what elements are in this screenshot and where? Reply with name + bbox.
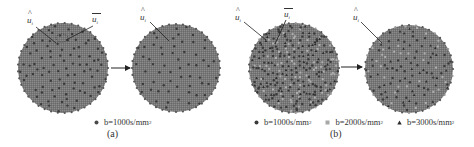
- bar-accent: [92, 13, 101, 14]
- legend-text: b=1000s/mm: [104, 117, 149, 127]
- bar-accent: [284, 8, 293, 9]
- legend-item: b=2000s/mm2: [325, 117, 382, 127]
- sphere-b-after: [364, 24, 454, 114]
- triangle-marker-icon: [397, 120, 402, 125]
- legend-sup: 2: [380, 120, 383, 125]
- label-u-bar-b: ui: [284, 10, 290, 20]
- hat-accent: ^: [236, 7, 240, 15]
- label-u-bar-a: ui: [92, 15, 98, 25]
- sphere-a-after: [131, 23, 221, 113]
- hat-accent: ^: [28, 10, 32, 18]
- label-sub: i: [97, 20, 98, 25]
- label-sub: i: [358, 18, 359, 23]
- legend-text: b=1000s/mm: [264, 117, 309, 127]
- legend-b: b=1000s/mm2 b=2000s/mm2 b=3000s/mm2: [254, 117, 454, 127]
- circle-marker-icon: [254, 120, 259, 125]
- label-u-hat-a-after: ^ui: [140, 13, 146, 23]
- pointer-u-hat-b2: [361, 22, 382, 43]
- caption-a: (a): [107, 128, 118, 139]
- legend-text: b=3000s/mm: [407, 117, 452, 127]
- pointer-u-hat-b: [244, 22, 266, 40]
- legend-text: b=2000s/mm: [335, 117, 380, 127]
- label-u-hat-a: ^ui: [27, 16, 33, 26]
- legend-sup: 2: [149, 120, 152, 125]
- label-sub: i: [145, 18, 146, 23]
- label-u-hat-b: ^ui: [235, 13, 241, 23]
- label-u-hat-b-after: ^ui: [353, 13, 359, 23]
- legend-sup: 2: [452, 120, 455, 125]
- panel-a: [17, 22, 221, 114]
- panel-b: [244, 20, 454, 114]
- legend-item: b=3000s/mm2: [397, 117, 454, 127]
- caption-b: (b): [330, 128, 342, 139]
- sphere-b-before: [248, 22, 340, 114]
- label-sub: i: [289, 15, 290, 20]
- sphere-a-before: [17, 22, 109, 114]
- circle-marker-icon: [94, 120, 99, 125]
- label-sub: i: [240, 18, 241, 23]
- hat-accent: ^: [354, 7, 358, 15]
- legend-item: b=1000s/mm2: [94, 117, 151, 127]
- legend-item: b=1000s/mm2: [254, 117, 311, 127]
- figure: ^ui ui ^ui ^ui ui ^ui b=1000s/mm2 (a) b=…: [0, 0, 474, 147]
- label-sub: i: [32, 21, 33, 26]
- hat-accent: ^: [141, 7, 145, 15]
- square-marker-icon: [325, 120, 330, 125]
- legend-sup: 2: [309, 120, 312, 125]
- legend-a: b=1000s/mm2: [94, 117, 151, 127]
